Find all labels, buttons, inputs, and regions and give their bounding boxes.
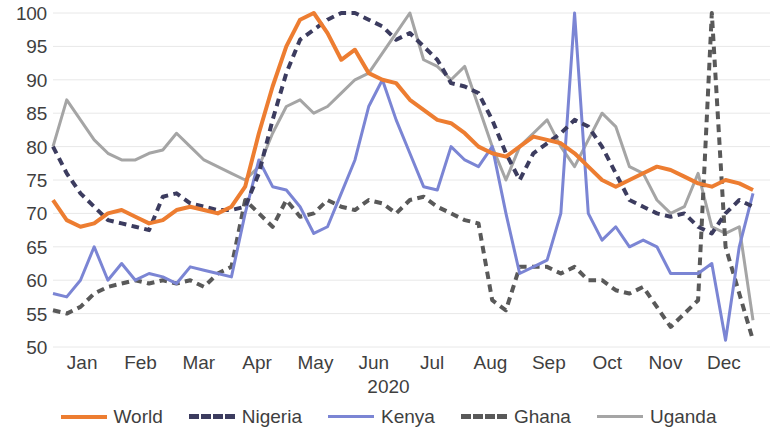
legend-swatch-nigeria-icon xyxy=(189,414,235,419)
legend-label: World xyxy=(114,407,163,426)
legend-label: Kenya xyxy=(381,407,435,426)
y-axis-tick-label: 90 xyxy=(0,71,47,90)
plot-area xyxy=(53,13,770,347)
x-axis-tick-label: May xyxy=(298,352,334,374)
y-axis-tick-label: 70 xyxy=(0,204,47,223)
line-chart: 10095908580757065605550 JanFebMarAprMayJ… xyxy=(0,0,777,430)
x-axis-tick-label: Oct xyxy=(592,352,622,374)
x-axis-tick-label: Mar xyxy=(182,352,215,374)
y-axis-tick-label: 65 xyxy=(0,238,47,257)
series-line-world xyxy=(53,13,753,227)
y-axis-tick-label: 75 xyxy=(0,171,47,190)
legend-swatch-uganda-icon xyxy=(597,415,643,418)
legend-item-world[interactable]: World xyxy=(61,407,163,426)
x-axis-tick-label: Jun xyxy=(359,352,390,374)
series-canvas xyxy=(53,13,770,347)
x-axis-tick-label: Nov xyxy=(649,352,683,374)
y-axis: 10095908580757065605550 xyxy=(0,0,47,360)
y-axis-tick-label: 55 xyxy=(0,305,47,324)
x-axis-tick-label: Apr xyxy=(242,352,272,374)
y-axis-tick-label: 95 xyxy=(0,37,47,56)
legend-swatch-ghana-icon xyxy=(461,414,507,419)
legend-item-kenya[interactable]: Kenya xyxy=(328,407,435,426)
legend-swatch-world-icon xyxy=(61,415,107,419)
legend-item-nigeria[interactable]: Nigeria xyxy=(189,407,302,426)
x-axis: JanFebMarAprMayJunJulAugSepOctNovDec xyxy=(53,352,770,378)
x-axis-tick-label: Jan xyxy=(67,352,98,374)
y-axis-tick-label: 100 xyxy=(0,4,47,23)
x-axis-tick-label: Dec xyxy=(707,352,741,374)
legend-label: Ghana xyxy=(514,407,571,426)
legend-item-ghana[interactable]: Ghana xyxy=(461,407,571,426)
x-axis-tick-label: Jul xyxy=(420,352,444,374)
y-axis-tick-label: 85 xyxy=(0,104,47,123)
chart-legend: WorldNigeriaKenyaGhanaUganda xyxy=(0,403,777,430)
legend-item-uganda[interactable]: Uganda xyxy=(597,407,717,426)
x-axis-tick-label: Sep xyxy=(532,352,566,374)
y-axis-tick-label: 80 xyxy=(0,138,47,157)
legend-label: Uganda xyxy=(650,407,717,426)
x-axis-tick-label: Aug xyxy=(474,352,508,374)
legend-label: Nigeria xyxy=(242,407,302,426)
series-line-ghana xyxy=(53,13,753,340)
legend-swatch-kenya-icon xyxy=(328,415,374,418)
y-axis-tick-label: 60 xyxy=(0,271,47,290)
x-axis-tick-label: Feb xyxy=(124,352,157,374)
x-axis-title: 2020 xyxy=(0,376,777,398)
y-axis-tick-label: 50 xyxy=(0,338,47,357)
